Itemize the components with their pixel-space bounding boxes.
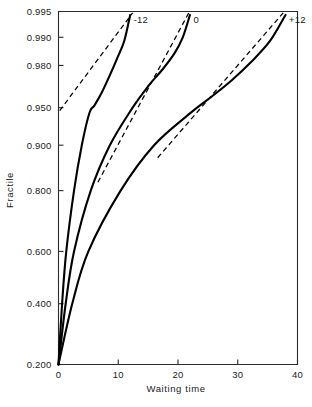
x-tick-label: 30	[232, 369, 243, 380]
x-tick-label: 40	[292, 369, 303, 380]
y-tick-label: 0.600	[27, 246, 52, 257]
y-tick-label: 0.800	[27, 185, 52, 196]
x-tick-label: 20	[173, 369, 184, 380]
x-axis-ticks	[59, 360, 298, 365]
reference-lines-group	[60, 13, 283, 182]
curve-label: 0	[193, 14, 198, 25]
plot-frame	[59, 12, 298, 365]
y-axis-title: Fractile	[4, 172, 15, 208]
curve-label: -12	[134, 14, 148, 25]
y-tick-label: 0.995	[27, 6, 52, 17]
probability-plot: 010203040 0.2000.4000.6000.8000.9000.950…	[0, 0, 312, 407]
y-tick-label: 0.990	[27, 32, 52, 43]
x-axis-title: Waiting time	[146, 383, 205, 394]
reference-line	[158, 13, 283, 158]
curve-label: +12	[289, 14, 306, 25]
reference-line	[60, 13, 133, 111]
y-tick-label: 0.950	[27, 102, 52, 113]
y-tick-label: 0.980	[27, 60, 52, 71]
chart-figure: 010203040 0.2000.4000.6000.8000.9000.950…	[0, 0, 312, 407]
y-axis-tick-labels: 0.2000.4000.6000.8000.9000.9500.9800.990…	[27, 6, 52, 370]
y-tick-label: 0.400	[27, 298, 52, 309]
y-tick-label: 0.200	[27, 359, 52, 370]
x-axis-tick-labels: 010203040	[56, 369, 303, 380]
x-tick-label: 10	[113, 369, 124, 380]
data-curve	[59, 15, 190, 365]
y-tick-label: 0.900	[27, 140, 52, 151]
axis-frame	[59, 12, 298, 365]
x-tick-label: 0	[56, 369, 61, 380]
